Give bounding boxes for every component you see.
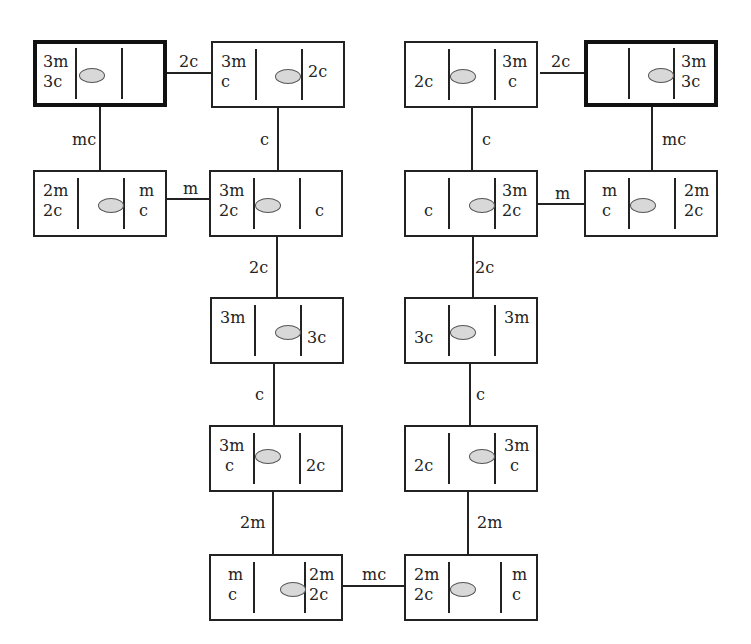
left-bank-line: [255, 49, 257, 100]
left-bank-contents: 3c: [414, 328, 433, 348]
right-bank-line: [494, 49, 496, 100]
left-bank-line: [448, 178, 450, 229]
boat-icon: [79, 68, 105, 83]
edge-label: mc: [362, 566, 386, 584]
edge-label: m: [183, 180, 198, 198]
edge-s6-s7: [272, 491, 274, 554]
right-bank-line: [500, 562, 502, 613]
edge-s9-s10: [469, 363, 471, 425]
boat-icon: [450, 582, 476, 597]
left-bank-line: [75, 48, 77, 99]
right-bank-contents: 3mc: [502, 52, 527, 92]
state: 2m2c mc: [404, 554, 538, 621]
right-bank-contents: c: [315, 201, 324, 221]
left-bank-contents: mc: [228, 565, 243, 605]
edge-label: mc: [72, 131, 96, 149]
edge-label: 2c: [179, 53, 198, 71]
edge-s2-s4: [277, 107, 279, 170]
left-bank-contents: 2c: [414, 456, 433, 476]
state: 3c 3m: [404, 297, 538, 364]
left-bank-contents: 2m2c: [43, 181, 68, 221]
state-goal: 3m3c: [584, 40, 718, 107]
right-bank-line: [301, 49, 303, 100]
edge-s11-s13: [471, 107, 473, 170]
left-bank-contents: mc: [602, 181, 617, 221]
left-bank-line: [77, 178, 79, 229]
right-bank-contents: mc: [512, 565, 527, 605]
left-bank-line: [628, 48, 630, 99]
state: 3m2c c: [209, 170, 343, 237]
edge-s4-s5: [276, 236, 278, 297]
right-bank-line: [299, 433, 301, 484]
right-bank-line: [674, 178, 676, 229]
state: 3m 3c: [210, 297, 344, 364]
right-bank-contents: 3mc: [504, 436, 529, 476]
left-bank-contents: 3m2c: [219, 181, 244, 221]
right-bank-contents: 2m2c: [309, 565, 334, 605]
state: 2c 3mc: [404, 41, 538, 108]
edge-s11-s12: [538, 203, 584, 205]
boat-icon: [98, 198, 124, 213]
edge-label: c: [255, 386, 264, 404]
edge-s1-s2: [167, 72, 211, 74]
edge-label: c: [476, 386, 485, 404]
left-bank-contents: 3m3c: [43, 52, 68, 92]
state: mc 2m2c: [584, 170, 718, 237]
left-bank-line: [448, 433, 450, 484]
right-bank-contents: 3m3c: [681, 52, 706, 92]
boat-icon: [648, 68, 674, 83]
edge-label: 2c: [475, 259, 494, 277]
right-bank-contents: 3m: [504, 308, 529, 328]
right-bank-line: [121, 48, 123, 99]
boat-icon: [469, 449, 495, 464]
right-bank-contents: 2c: [308, 62, 327, 82]
boat-icon: [450, 325, 476, 340]
left-bank-contents: c: [424, 201, 433, 221]
boat-icon: [280, 582, 306, 597]
left-bank-contents: 3mc: [221, 52, 246, 92]
right-bank-line: [299, 178, 301, 229]
edge-s13-s14: [540, 72, 584, 74]
edge-label: 2m: [477, 514, 502, 532]
left-bank-line: [254, 305, 256, 356]
right-bank-contents: 2m2c: [684, 181, 709, 221]
right-bank-contents: 3m2c: [502, 181, 527, 221]
right-bank-contents: 3c: [307, 328, 326, 348]
edge-label: mc: [662, 131, 686, 149]
edge-s10-s11: [472, 236, 474, 297]
edge-s8-s9: [467, 491, 469, 554]
right-bank-contents: mc: [139, 181, 154, 221]
left-bank-contents: 3m: [220, 308, 245, 328]
left-bank-line: [253, 562, 255, 613]
state: 2m2c mc: [33, 170, 167, 237]
edge-s5-s6: [273, 363, 275, 425]
edge-s3-s4: [167, 198, 210, 200]
boat-icon: [275, 69, 301, 84]
boat-icon: [450, 69, 476, 84]
boat-icon: [255, 449, 281, 464]
left-bank-contents: 2c: [414, 72, 433, 92]
edge-label: c: [482, 131, 491, 149]
edge-s12-s14: [651, 107, 653, 170]
edge-label: 2c: [551, 53, 570, 71]
edge-label: 2c: [249, 259, 268, 277]
edge-label: 2m: [240, 514, 265, 532]
left-bank-contents: 3mc: [219, 436, 244, 476]
state: mc 2m2c: [209, 554, 343, 621]
state: 3mc 2c: [209, 425, 343, 492]
right-bank-line: [494, 305, 496, 356]
boat-icon: [630, 198, 656, 213]
boat-icon: [275, 325, 301, 340]
edge-label: m: [555, 185, 570, 203]
right-bank-contents: 2c: [306, 456, 325, 476]
edge-s1-s3: [99, 107, 101, 170]
left-bank-contents: 2m2c: [414, 565, 439, 605]
state-space-diagram: 2c mc c m 2c c 2m mc 2m c 2c m c 2c mc 3…: [0, 0, 751, 644]
boat-icon: [255, 198, 281, 213]
state: 3mc 2c: [211, 41, 345, 108]
state: 2c 3mc: [404, 425, 538, 492]
boat-icon: [469, 198, 495, 213]
state: c 3m2c: [404, 170, 538, 237]
edge-s7-s8: [343, 585, 404, 587]
edge-label: c: [260, 131, 269, 149]
